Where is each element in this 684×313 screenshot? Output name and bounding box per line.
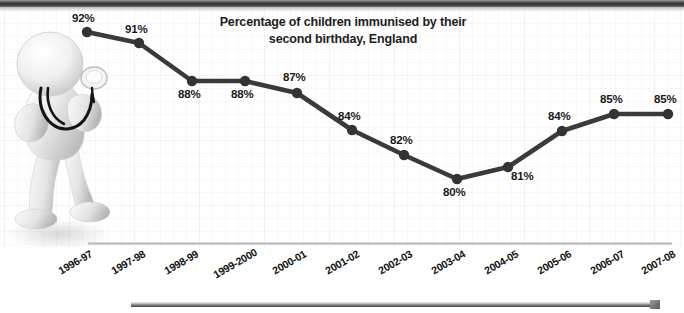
data-label-1998-99: 88% [178, 88, 200, 100]
data-label-2003-04: 80% [443, 186, 465, 198]
data-point-marker[interactable] [82, 27, 92, 37]
data-label-1999-2000: 88% [231, 88, 253, 100]
data-point-marker[interactable] [452, 174, 462, 184]
data-markers [82, 27, 673, 184]
data-point-marker[interactable] [134, 38, 144, 48]
x-axis-line [88, 242, 672, 245]
data-label-2000-01: 87% [283, 71, 305, 83]
footer-rule [131, 302, 653, 307]
data-label-2006-07: 85% [600, 93, 622, 105]
data-label-2002-03: 82% [390, 134, 412, 146]
chart-page: Percentage of children immunised by thei… [0, 0, 684, 313]
data-label-2005-06: 84% [548, 110, 570, 122]
data-point-marker[interactable] [347, 125, 357, 135]
data-point-marker[interactable] [292, 88, 302, 98]
data-label-2007-08: 85% [654, 93, 676, 105]
data-line [87, 32, 668, 179]
data-label-1997-98: 91% [125, 23, 147, 35]
data-point-marker[interactable] [187, 76, 197, 86]
data-point-marker[interactable] [557, 126, 567, 136]
footer-rule-cap [650, 300, 660, 309]
data-label-2004-05: 81% [511, 170, 533, 182]
data-point-marker[interactable] [609, 109, 619, 119]
data-label-1996-97: 92% [72, 12, 94, 24]
data-point-marker[interactable] [240, 76, 250, 86]
data-point-marker[interactable] [399, 150, 409, 160]
data-label-2001-02: 84% [338, 110, 360, 122]
data-point-marker[interactable] [663, 109, 673, 119]
